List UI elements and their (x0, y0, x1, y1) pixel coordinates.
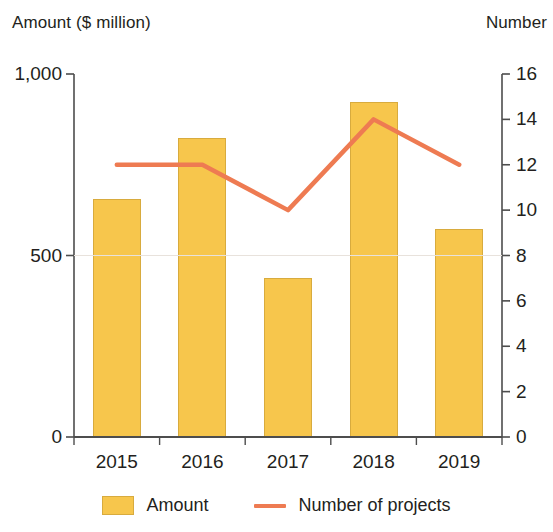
legend-bar-swatch-icon (102, 496, 134, 515)
line-series-number-of-projects (117, 119, 459, 210)
legend-item-amount: Amount (102, 495, 208, 516)
legend-line-swatch-icon (254, 504, 286, 508)
legend-label-number-of-projects: Number of projects (298, 495, 450, 516)
legend-label-amount: Amount (146, 495, 208, 516)
plot-area: 1,0005000 1614121086420 2015201620172018… (0, 0, 553, 532)
chart-legend: Amount Number of projects (0, 495, 553, 516)
axes-and-line-layer (0, 0, 553, 532)
legend-item-number-of-projects: Number of projects (254, 495, 450, 516)
